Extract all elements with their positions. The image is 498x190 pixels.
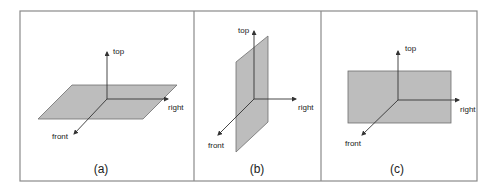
plane-orientation-diagram: top right front (a) top right front (b) …	[0, 0, 498, 190]
panel-c: top right front (c)	[345, 44, 476, 176]
axis-label-right: right	[298, 103, 314, 112]
panel-b: top right front (b)	[208, 26, 314, 176]
caption-c: (c)	[390, 162, 404, 176]
axis-label-front: front	[208, 141, 225, 150]
panel-a: top right front (a)	[38, 47, 184, 176]
plane-horizontal	[38, 85, 177, 119]
caption-a: (a)	[94, 162, 109, 176]
axis-label-front: front	[345, 139, 362, 148]
axis-label-top: top	[405, 44, 417, 53]
axis-label-top: top	[238, 26, 250, 35]
caption-b: (b)	[250, 162, 265, 176]
axis-label-top: top	[113, 47, 125, 56]
plane-vertical-side	[236, 36, 268, 152]
plane-vertical-front	[348, 71, 451, 123]
axis-label-right: right	[460, 105, 476, 114]
axis-label-right: right	[168, 103, 184, 112]
axis-label-front: front	[52, 132, 69, 141]
